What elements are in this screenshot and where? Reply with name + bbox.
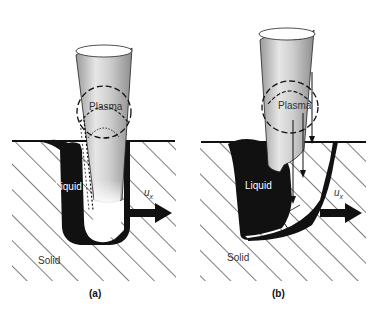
beam-top-opening-a [76,45,132,57]
solid-label-a: Solid [38,255,60,266]
beam-top-opening-b [259,28,315,40]
liquid-label-a: Liquid [55,181,82,192]
caption-a: (a) [89,288,101,299]
diagram-canvas: Plasma Liquid Solid ux (a) [0,0,371,309]
plasma-label-a: Plasma [89,101,123,112]
plasma-label-b: Plasma [278,100,312,111]
panel-b: Plasma Liquid Solid ux (b) [200,28,366,299]
solid-label-b: Solid [227,252,249,263]
liquid-label-b: Liquid [245,180,272,191]
panel-a: Plasma Liquid Solid ux (a) [12,45,176,299]
caption-b: (b) [272,288,285,299]
